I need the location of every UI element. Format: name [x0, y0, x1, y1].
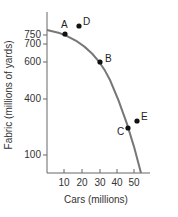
y-axis-label: Fabric (millions of yards) [3, 41, 14, 150]
ppf-chart: 750 700 600 400 100 10 20 30 40 50 Cars … [0, 0, 178, 217]
y-tick-600: 600 [24, 56, 41, 67]
x-tick-20: 20 [76, 177, 88, 188]
ppf-curve [47, 30, 141, 173]
x-tick-40: 40 [111, 177, 123, 188]
x-tick-10: 10 [58, 177, 70, 188]
svg-text:E: E [141, 111, 148, 122]
point-B: B [97, 53, 112, 65]
x-tick-30: 30 [94, 177, 106, 188]
y-tick-700: 700 [24, 38, 41, 49]
point-E: E [134, 111, 148, 124]
y-tick-400: 400 [24, 93, 41, 104]
y-ticks: 750 700 600 400 100 [24, 29, 47, 160]
x-axis-label: Cars (millions) [64, 194, 128, 205]
svg-text:C: C [117, 126, 124, 137]
svg-text:A: A [61, 19, 68, 30]
x-ticks: 10 20 30 40 50 [58, 169, 140, 188]
svg-text:B: B [105, 53, 112, 64]
x-tick-50: 50 [128, 177, 140, 188]
svg-text:D: D [83, 16, 90, 27]
y-tick-100: 100 [24, 149, 41, 160]
point-D: D [76, 16, 90, 29]
